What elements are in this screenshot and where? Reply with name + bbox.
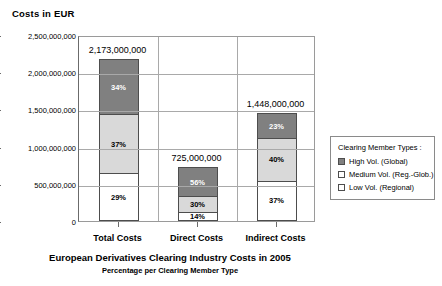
x-axis-label-total-costs: Total Costs (93, 233, 141, 243)
gridline (79, 149, 314, 150)
legend-label: High Vol. (Global) (349, 157, 408, 166)
legend-label: Medium Vol. (Reg.-Glob.) (349, 170, 434, 179)
legend-item[interactable]: High Vol. (Global) (338, 157, 428, 166)
y-axis-tick-mark (0, 148, 1, 149)
x-axis-label-direct-costs: Direct Costs (170, 233, 223, 243)
bar-total-label: 1,448,000,000 (216, 99, 336, 109)
y-axis-tick-mark (0, 185, 1, 186)
y-axis-tick-label: 1,500,000,000 (2, 106, 76, 115)
bar-segment-med[interactable]: 37% (99, 114, 139, 174)
bar-total-label: 2,173,000,000 (58, 45, 178, 55)
gridline (79, 74, 314, 75)
x-axis-tick-mark (197, 222, 198, 227)
legend-rows: High Vol. (Global)Medium Vol. (Reg.-Glob… (338, 157, 428, 192)
category-separator (237, 37, 238, 221)
chart-root: Costs in EUR 2,500,000,0002,000,000,0001… (0, 0, 442, 286)
bar-segment-med[interactable]: 40% (257, 138, 297, 181)
legend-item[interactable]: Low Vol. (Regional) (338, 183, 428, 192)
x-axis-tick-mark (276, 222, 277, 227)
y-axis-tick-mark (0, 110, 1, 111)
y-axis-tick-label: 2,000,000,000 (2, 69, 76, 78)
bar-segment-low[interactable]: 14% (178, 212, 218, 221)
bar-segment-high[interactable]: 34% (99, 59, 139, 115)
y-axis-tick-mark (0, 222, 1, 223)
chart-subtitle: Percentage per Clearing Member Type (0, 266, 340, 275)
x-axis-tick-mark (118, 222, 119, 227)
legend-swatch-med (338, 171, 345, 178)
legend-item[interactable]: Medium Vol. (Reg.-Glob.) (338, 170, 428, 179)
legend-label: Low Vol. (Regional) (349, 183, 414, 192)
y-axis-tick-label: 500,000,000 (2, 180, 76, 189)
y-axis-tick-mark (0, 73, 1, 74)
y-axis-caption: Costs in EUR (12, 8, 75, 19)
y-axis-tick-label: 2,500,000,000 (2, 32, 76, 41)
legend: Clearing Member Types : High Vol. (Globa… (330, 136, 435, 200)
y-axis-tick-label: 0 (2, 218, 76, 227)
x-axis-label-indirect-costs: Indirect Costs (245, 233, 305, 243)
bars-container: 34%37%29%56%30%14%23%40%37% (79, 37, 314, 221)
gridline (79, 186, 314, 187)
y-axis-tick-mark (0, 36, 1, 37)
stacked-bar[interactable]: 23%40%37% (257, 113, 297, 221)
stacked-bar[interactable]: 34%37%29% (99, 59, 139, 221)
y-axis-tick-labels: 2,500,000,0002,000,000,0001,500,000,0001… (0, 36, 76, 222)
bar-segment-low[interactable]: 29% (99, 173, 139, 221)
gridline (79, 111, 314, 112)
legend-title: Clearing Member Types : (338, 143, 428, 152)
legend-swatch-high (338, 158, 345, 165)
chart-title: European Derivatives Clearing Industry C… (0, 252, 340, 263)
category-separator (158, 37, 159, 221)
bar-segment-high[interactable]: 23% (257, 113, 297, 139)
bar-total-label: 725,000,000 (137, 153, 257, 163)
y-axis-tick-label: 1,000,000,000 (2, 143, 76, 152)
legend-swatch-low (338, 184, 345, 191)
bar-segment-high[interactable]: 56% (178, 167, 218, 197)
plot-area: 34%37%29%56%30%14%23%40%37% (78, 36, 315, 222)
bar-segment-med[interactable]: 30% (178, 196, 218, 213)
stacked-bar[interactable]: 56%30%14% (178, 167, 218, 221)
